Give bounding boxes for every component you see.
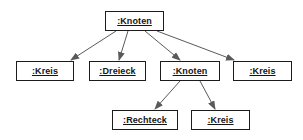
object-node-label: :Knoten — [117, 17, 152, 26]
object-node-label: :Kreis — [249, 67, 275, 76]
edge-n0-to-n4 — [157, 31, 234, 60]
object-node-label: :Knoten — [173, 67, 208, 76]
object-node-label: :Kreis — [207, 116, 233, 125]
object-node-dreieck-2[interactable]: :Dreieck — [89, 61, 146, 81]
object-node-label: :Dreieck — [99, 67, 135, 76]
edge-n3-to-n6 — [200, 81, 215, 109]
edge-n3-to-n5 — [155, 81, 180, 109]
object-node-knoten-0[interactable]: :Knoten — [105, 11, 164, 31]
object-node-kreis-1[interactable]: :Kreis — [16, 61, 74, 81]
object-node-label: :Rechteck — [123, 116, 167, 125]
edge-n0-to-n2 — [119, 31, 128, 60]
object-node-label: :Kreis — [32, 67, 58, 76]
object-node-kreis-6[interactable]: :Kreis — [191, 110, 250, 130]
uml-object-diagram: :Knoten:Kreis:Dreieck:Knoten:Kreis:Recht… — [0, 0, 303, 140]
edge-n0-to-n3 — [145, 31, 180, 60]
object-node-kreis-4[interactable]: :Kreis — [233, 61, 292, 81]
object-node-rechteck-5[interactable]: :Rechteck — [112, 110, 178, 130]
edge-n0-to-n1 — [71, 31, 116, 60]
object-node-knoten-3[interactable]: :Knoten — [160, 61, 220, 81]
